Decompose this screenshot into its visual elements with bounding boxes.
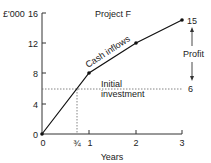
ytick-4: 4 <box>33 100 38 110</box>
arrow-up-icon <box>190 27 194 32</box>
xtick-3q: ¾ <box>73 138 81 148</box>
xtick-3: 3 <box>179 138 184 148</box>
series-label: Cash inflows <box>84 33 133 69</box>
ytick-0: 0 <box>33 130 38 140</box>
bottom-value-label: 6 <box>188 84 193 94</box>
profit-label: Profit <box>183 49 205 59</box>
ylabel: £'000 <box>3 9 25 19</box>
data-points <box>40 18 184 136</box>
xtick-2: 2 <box>133 138 138 148</box>
ytick-16: 16 <box>28 9 38 19</box>
chart-title: Project F <box>95 9 132 19</box>
investment-label-1: Initial <box>101 79 122 89</box>
x-ticks <box>89 130 182 134</box>
ytick-12: 12 <box>28 39 38 49</box>
ytick-8: 8 <box>33 69 38 79</box>
cash-inflows-line <box>42 20 182 134</box>
top-value-label: 15 <box>187 16 197 26</box>
arrow-down-icon <box>190 76 194 81</box>
y-ticks <box>42 13 46 104</box>
investment-label-2: investment <box>101 89 145 99</box>
xlabel: Years <box>101 152 124 162</box>
payback-chart: £'000 16 12 8 4 0 0 ¾ 1 2 3 Years Projec… <box>0 0 211 163</box>
xtick-0: 0 <box>40 138 45 148</box>
xtick-1: 1 <box>87 138 92 148</box>
